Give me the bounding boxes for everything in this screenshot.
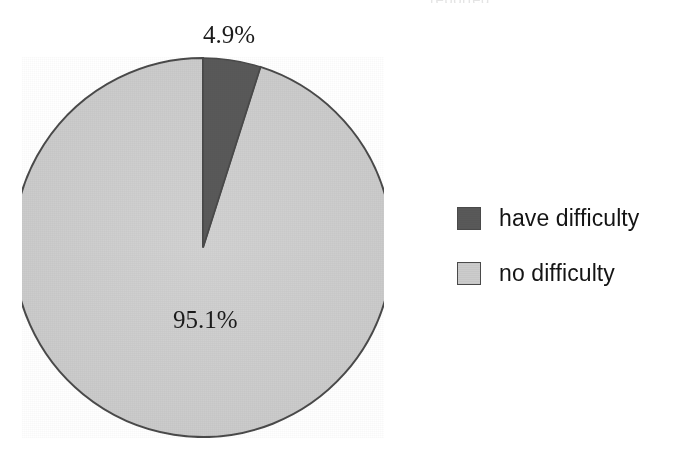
legend-label-have-difficulty: have difficulty	[499, 205, 639, 232]
legend-item-no-difficulty: no difficulty	[457, 246, 689, 301]
cropped-title-remnant: reported	[430, 0, 550, 3]
slice-label-have-difficulty: 4.9%	[203, 21, 255, 49]
pie-svg	[22, 57, 384, 438]
chart-figure: reported 4.9% 95.1% have difficulty	[0, 0, 689, 450]
slice-label-no-difficulty: 95.1%	[173, 306, 238, 334]
legend-item-have-difficulty: have difficulty	[457, 191, 689, 246]
legend-label-no-difficulty: no difficulty	[499, 260, 615, 287]
swatch-grain	[458, 208, 480, 229]
chart-legend: have difficulty no difficulty	[457, 191, 689, 301]
legend-swatch-have-difficulty	[457, 207, 481, 230]
swatch-grain	[458, 263, 480, 284]
pie-chart	[22, 57, 384, 438]
legend-swatch-no-difficulty	[457, 262, 481, 285]
